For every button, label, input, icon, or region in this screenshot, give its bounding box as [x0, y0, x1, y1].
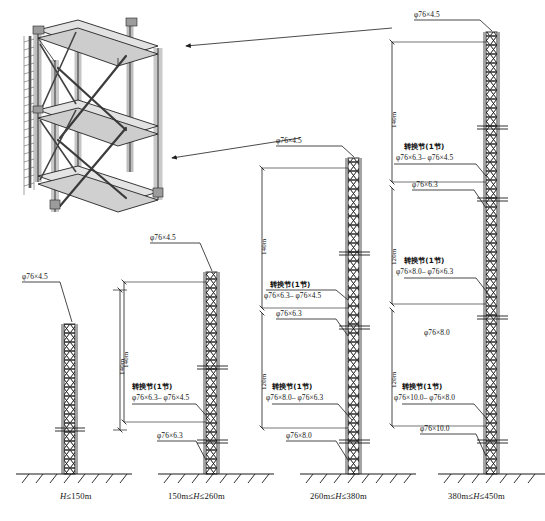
tower-4-dimension-0: 140m — [390, 112, 399, 128]
tower-4-transition-1-title: 转换节(1节) — [404, 256, 444, 265]
tower-4-transition-1-spec: φ76×8.0– φ76×6.3 — [396, 267, 453, 276]
tower-4-transition-2-title: 转换节(1节) — [402, 382, 442, 391]
tower-4-dimension-2: 120m — [390, 372, 399, 388]
caption-post: ≤380m — [342, 491, 367, 501]
tower-4-callout-1: φ76×6.3 — [412, 180, 438, 189]
tower-3-callout-1: φ76×6.3 — [276, 309, 302, 318]
caption-pre: 380m≤ — [448, 491, 473, 501]
caption-post: ≤150m — [66, 491, 91, 501]
tower-3-transition-0-title: 转换节(1节) — [270, 280, 310, 289]
caption-pre: 260m≤ — [310, 491, 335, 501]
tower-2-graphic — [124, 243, 274, 483]
tower-4-transition-0-spec: φ76×6.3– φ76×4.5 — [396, 153, 453, 162]
caption-post: ≤260m — [200, 491, 225, 501]
tower-3-caption: 260m≤H≤380m — [310, 492, 367, 501]
tower-3-transition-0-spec: φ76×6.3– φ76×4.5 — [264, 291, 321, 300]
tower-2-dimension-0: 140m — [122, 352, 131, 368]
tower-4-dimension-1: 120m — [390, 249, 399, 265]
diagram-vector-layer — [0, 0, 545, 521]
tower-1-callout-0: φ76×4.5 — [22, 272, 48, 281]
tower-3-dimension-1: 120m — [260, 374, 269, 390]
tower-2-transition-0-title: 转换节(1节) — [132, 382, 172, 391]
mast-section-3d — [24, 18, 163, 212]
tower-1-caption: H≤150m — [60, 492, 92, 501]
tower-4-graphic — [392, 20, 545, 483]
tower-3-transition-1-spec: φ76×8.0– φ76×6.3 — [266, 393, 323, 402]
tower-4-transition-0-title: 转换节(1节) — [404, 142, 444, 151]
tower-4-callout-3: φ76×10.0 — [420, 424, 450, 433]
tower-4-callout-0: φ76×4.5 — [414, 10, 440, 19]
tower-3-transition-1-title: 转换节(1节) — [272, 382, 312, 391]
leader-arrow-top — [186, 28, 392, 46]
tower-2-caption: 150m≤H≤260m — [168, 492, 225, 501]
tower-4-transition-2-spec: φ76×10.0– φ76×8.0 — [394, 393, 455, 402]
tower-1-graphic — [16, 282, 132, 483]
tower-3-callout-0: φ76×4.5 — [276, 136, 302, 145]
caption-post: ≤450m — [480, 491, 505, 501]
tower-4-caption: 380m≤H≤450m — [448, 492, 505, 501]
tower-2-callout-1: φ76×6.3 — [157, 431, 183, 440]
tower-3-dimension-0: 140m — [260, 239, 269, 255]
tower-2-callout-0: φ76×4.5 — [150, 233, 176, 242]
tower-2-transition-0-spec: φ76×6.3– φ76×4.5 — [132, 393, 189, 402]
tower-3-callout-2: φ76×8.0 — [286, 431, 312, 440]
tower-4-callout-2: φ76×8.0 — [424, 328, 450, 337]
diagram-canvas: φ76×4.5 140m H≤150m φ76×4.5 转换节(1节) φ76×… — [0, 0, 545, 521]
caption-pre: 150m≤ — [168, 491, 193, 501]
